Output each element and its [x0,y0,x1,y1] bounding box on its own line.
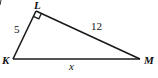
vertex-label-m: M [143,54,155,66]
corner-artifact [0,0,1,5]
vertex-label-l: L [33,0,41,11]
vertex-label-k: K [1,54,10,66]
side-lm [36,11,140,59]
side-kl [13,11,36,59]
side-label-km: x [68,60,74,72]
side-label-kl: 5 [14,23,20,35]
triangle-diagram: L K M 5 12 x [0,0,158,78]
side-label-lm: 12 [91,20,102,32]
